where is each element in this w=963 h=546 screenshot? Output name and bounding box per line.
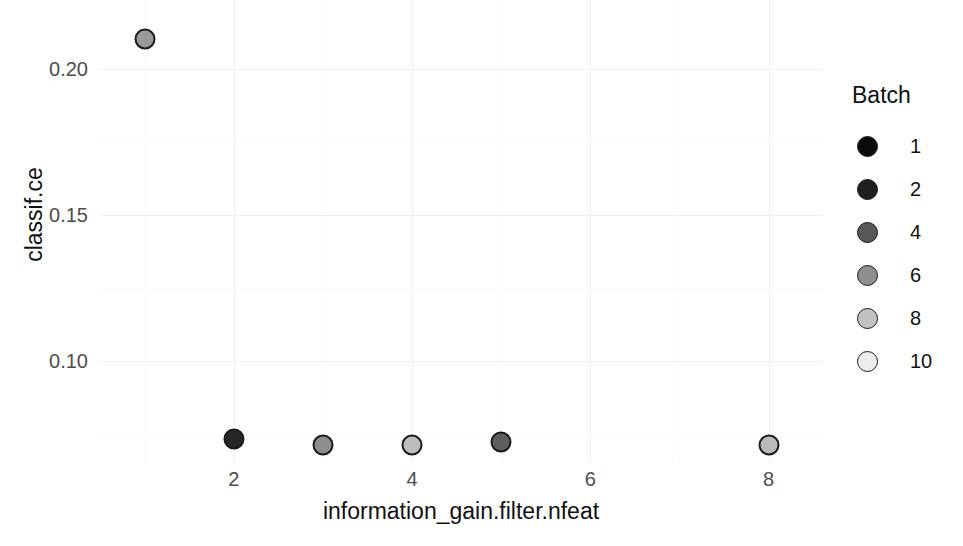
legend-item[interactable]: 8 <box>846 297 956 340</box>
x-axis-title: information_gain.filter.nfeat <box>100 498 822 525</box>
legend-swatch-circle-icon <box>857 265 878 286</box>
x-tick-label: 8 <box>763 468 774 491</box>
y-tick-label: 0.20 <box>49 57 88 80</box>
y-tick-label: 0.10 <box>49 350 88 373</box>
legend-swatch-circle-icon <box>857 136 878 157</box>
legend: Batch 1246810 <box>846 82 956 383</box>
legend-swatch-circle-icon <box>857 179 878 200</box>
gridline-minor-y <box>100 288 822 289</box>
x-tick-label: 4 <box>406 468 417 491</box>
legend-item-label: 10 <box>910 350 932 373</box>
legend-key <box>846 308 888 329</box>
legend-key <box>846 351 888 372</box>
legend-item-label: 8 <box>910 307 921 330</box>
legend-swatch-circle-icon <box>857 308 878 329</box>
data-point <box>223 429 244 450</box>
legend-items: 1246810 <box>846 125 956 383</box>
plot-panel <box>100 0 822 462</box>
legend-key <box>846 265 888 286</box>
legend-item-label: 2 <box>910 178 921 201</box>
legend-swatch-circle-icon <box>857 222 878 243</box>
gridline-major-y <box>100 361 822 362</box>
legend-key <box>846 179 888 200</box>
legend-swatch-circle-icon <box>857 351 878 372</box>
legend-item[interactable]: 10 <box>846 340 956 383</box>
data-point <box>491 432 512 453</box>
gridline-major-y <box>100 215 822 216</box>
data-point <box>758 435 779 456</box>
legend-item[interactable]: 2 <box>846 168 956 211</box>
legend-item-label: 6 <box>910 264 921 287</box>
data-point <box>312 435 333 456</box>
legend-item-label: 1 <box>910 135 921 158</box>
x-axis-tick-labels: 2468 <box>100 468 822 494</box>
legend-key <box>846 136 888 157</box>
legend-item[interactable]: 6 <box>846 254 956 297</box>
legend-item[interactable]: 1 <box>846 125 956 168</box>
legend-key <box>846 222 888 243</box>
x-tick-label: 2 <box>228 468 239 491</box>
x-tick-label: 6 <box>585 468 596 491</box>
legend-item-label: 4 <box>910 221 921 244</box>
gridline-major-y <box>100 69 822 70</box>
gridline-minor-y <box>100 142 822 143</box>
legend-item[interactable]: 4 <box>846 211 956 254</box>
y-axis-title: classif.ce <box>21 85 48 345</box>
data-point <box>401 435 422 456</box>
gridline-minor-y <box>100 434 822 435</box>
legend-title: Batch <box>846 82 956 109</box>
scatter-plot-figure: 0.100.150.20 2468 information_gain.filte… <box>0 0 963 546</box>
data-point <box>134 28 155 49</box>
y-tick-label: 0.15 <box>49 203 88 226</box>
